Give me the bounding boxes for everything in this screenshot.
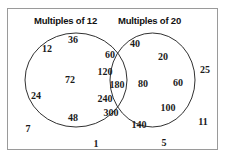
element-140: 140 (132, 119, 147, 130)
element-60r: 60 (173, 77, 183, 88)
element-80: 80 (138, 78, 148, 89)
element-40: 40 (130, 38, 140, 49)
element-180: 180 (110, 79, 125, 90)
element-24: 24 (31, 90, 41, 101)
element-300: 300 (104, 107, 119, 118)
element-25: 25 (200, 64, 210, 75)
element-5: 5 (162, 137, 167, 148)
element-48: 48 (68, 112, 78, 123)
element-7: 7 (26, 123, 31, 134)
right-set-title: Multiples of 20 (118, 15, 181, 26)
element-1: 1 (94, 138, 99, 149)
element-12: 12 (42, 43, 52, 54)
element-20: 20 (158, 51, 168, 62)
element-72: 72 (65, 74, 75, 85)
element-60-int: 60 (105, 49, 115, 60)
element-240: 240 (98, 93, 113, 104)
element-36: 36 (68, 34, 78, 45)
venn-diagram-screenshot: Multiples of 12 Multiples of 20 12367224… (0, 0, 226, 159)
element-120: 120 (98, 66, 113, 77)
left-set-title: Multiples of 12 (34, 15, 97, 26)
element-11: 11 (198, 116, 207, 127)
element-100: 100 (161, 102, 176, 113)
